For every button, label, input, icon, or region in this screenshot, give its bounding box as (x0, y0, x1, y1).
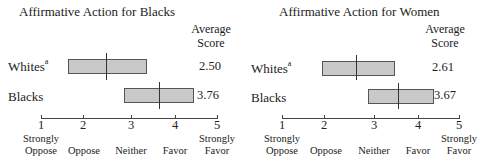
scale-label-strongly-favor: StronglyFavor (187, 133, 247, 157)
average-score-whites: 2.61 (432, 60, 454, 75)
tick-label-3: 3 (364, 118, 384, 133)
box-blacks (368, 89, 434, 104)
footnote-marker: a (288, 59, 292, 68)
footnote-marker: a (45, 57, 49, 66)
tick-label-5: 5 (449, 118, 469, 133)
median-line-whites (356, 55, 357, 80)
tick-label-4: 4 (408, 118, 428, 133)
tick-label-4: 4 (165, 118, 185, 133)
tick-label-5: 5 (207, 118, 227, 133)
average-score-blacks: 3.67 (434, 88, 456, 103)
median-line-blacks (398, 83, 399, 109)
row-label-whites: Whitesa (8, 59, 48, 75)
scale-label-strongly-favor: StronglyFavor (429, 133, 482, 157)
tick-label-2: 2 (73, 118, 93, 133)
box-whites (68, 59, 147, 74)
tick-label-2: 2 (314, 118, 334, 133)
average-score-header: Average Score (186, 22, 236, 50)
average-score-whites: 2.50 (199, 59, 221, 74)
tick-label-1: 1 (272, 118, 292, 133)
chart-title: Affirmative Action for Women (279, 4, 440, 20)
median-line-blacks (159, 82, 160, 109)
tick-label-1: 1 (31, 118, 51, 133)
row-label-blacks: Blacks (251, 90, 286, 106)
median-line-whites (106, 53, 107, 80)
tick-label-3: 3 (121, 118, 141, 133)
panel-blacks: Affirmative Action for Blacks Average Sc… (0, 0, 241, 161)
row-label-whites: Whitesa (251, 61, 291, 77)
row-label-blacks: Blacks (8, 89, 43, 105)
average-score-header: Average Score (420, 22, 470, 50)
box-whites (322, 61, 395, 76)
chart-title: Affirmative Action for Blacks (19, 4, 175, 20)
panel-women: Affirmative Action for Women Average Sco… (241, 0, 482, 161)
average-score-blacks: 3.76 (197, 88, 219, 103)
